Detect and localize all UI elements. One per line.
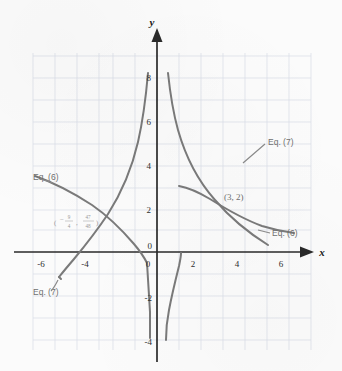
svg-text:48: 48 bbox=[85, 223, 91, 229]
eq7-branch-lower-left-tail bbox=[59, 277, 61, 279]
fraction-x-numerator: 9 bbox=[68, 214, 71, 220]
curve-lower-branches bbox=[147, 253, 181, 340]
curve-eq7 bbox=[59, 73, 268, 279]
x-tick-2: 2 bbox=[191, 259, 196, 269]
svg-text:(: ( bbox=[54, 219, 57, 227]
y-tick-2: 2 bbox=[147, 205, 152, 215]
curve-eq6 bbox=[35, 176, 294, 263]
eq6-branch-left bbox=[35, 176, 147, 263]
x-tick--4: -4 bbox=[81, 259, 89, 269]
fraction-point-label: ( − 9 4 , 47 48 ) bbox=[54, 214, 99, 229]
eq7-upper-right-label: Eq. (7) bbox=[268, 137, 294, 147]
y-axis-arrow bbox=[152, 28, 163, 42]
coordinate-plane: -6 -4 0 2 4 6 8 6 4 2 0 -2 -4 x y Eq. (6… bbox=[0, 0, 342, 371]
eq6-lower-right-leader bbox=[258, 230, 270, 233]
y-tick--2: -2 bbox=[145, 293, 153, 303]
annotation-eq6-lower-right: Eq. (6) bbox=[258, 228, 298, 238]
fraction-y-denominator: 48 bbox=[85, 223, 91, 229]
eq7-lower-left-label: Eq. (7) bbox=[33, 287, 59, 297]
svg-text:47: 47 bbox=[85, 214, 91, 220]
annotation-eq6-upper-left: Eq. (6) bbox=[33, 172, 59, 183]
eq7-upper-right-leader bbox=[243, 144, 265, 163]
x-tick-4: 4 bbox=[235, 259, 240, 269]
y-tick-6: 6 bbox=[147, 117, 152, 127]
fraction-open-paren: ( bbox=[54, 219, 57, 227]
x-tick-labels: -6 -4 0 2 4 6 bbox=[37, 259, 284, 269]
y-axis-label: y bbox=[148, 16, 155, 28]
fraction-x-denominator: 4 bbox=[68, 223, 71, 229]
y-tick-8: 8 bbox=[147, 73, 152, 83]
annotation-eq7-upper-right: Eq. (7) bbox=[243, 137, 294, 163]
fraction-comma: , bbox=[76, 219, 78, 227]
fraction-close-paren: ) bbox=[96, 219, 99, 227]
x-tick-0: 0 bbox=[146, 259, 151, 269]
intersection-point-label: (3, 2) bbox=[224, 192, 244, 202]
y-tick-0: 0 bbox=[148, 241, 153, 251]
eq7-branch-upper-right bbox=[168, 73, 268, 245]
x-tick-6: 6 bbox=[279, 259, 284, 269]
eq6-lower-right-label: Eq. (6) bbox=[272, 228, 298, 238]
x-axis-label: x bbox=[318, 246, 325, 258]
svg-text:4: 4 bbox=[68, 223, 71, 229]
y-tick--4: -4 bbox=[145, 337, 153, 347]
svg-text:−: − bbox=[60, 216, 64, 224]
svg-text:9: 9 bbox=[68, 214, 71, 220]
svg-text:): ) bbox=[96, 219, 99, 227]
y-tick-4: 4 bbox=[147, 161, 152, 171]
graph-figure: -6 -4 0 2 4 6 8 6 4 2 0 -2 -4 x y Eq. (6… bbox=[0, 0, 342, 371]
fraction-y-numerator: 47 bbox=[85, 214, 91, 220]
svg-text:,: , bbox=[76, 219, 78, 227]
x-tick--6: -6 bbox=[37, 259, 45, 269]
fraction-minus: − bbox=[60, 216, 64, 224]
x-axis-arrow bbox=[300, 247, 314, 258]
